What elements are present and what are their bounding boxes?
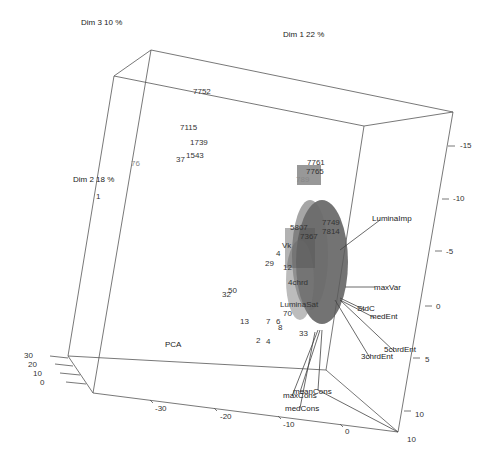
dim2-tick: 10: [415, 411, 424, 419]
cluster-label: 7367: [300, 233, 318, 241]
variable-label: medCons: [285, 405, 319, 413]
cluster-label: 4chrd: [288, 279, 308, 287]
dim3-axis-ticks: [50, 356, 86, 384]
cluster-label: 789: [296, 176, 309, 184]
cluster-label: Vk: [282, 242, 291, 250]
cluster-label: 33: [299, 330, 308, 338]
point-label: 76: [131, 160, 140, 168]
variable-label: LuminaImp: [372, 215, 412, 223]
dim3-tick: 0: [40, 379, 44, 387]
dim3-tick: 30: [24, 352, 33, 360]
point-label: 2: [256, 337, 260, 345]
dim3-axis-title: Dim 3 10 %: [81, 19, 122, 27]
cluster-label: 4: [276, 250, 280, 258]
point-label: 13: [240, 318, 249, 326]
point-label: 1543: [186, 152, 204, 160]
cluster-label: 70: [283, 310, 292, 318]
dim2-tick: -10: [453, 195, 465, 203]
pca-3d-plot: [0, 0, 493, 461]
dim2-tick: -15: [460, 142, 472, 150]
point-label: 8: [278, 324, 282, 332]
dim3-tick: 20: [28, 361, 37, 369]
dim2-tick: 5: [425, 356, 429, 364]
dim2-tick: 0: [436, 303, 440, 311]
variable-label: 3chrdEnt: [361, 353, 393, 361]
dim1-tick: 10: [407, 436, 416, 444]
variable-label: medEnt: [370, 313, 398, 321]
dim3-tick: 10: [33, 370, 42, 378]
point-label: 29: [265, 260, 274, 268]
cluster-label: 7749: [322, 219, 340, 227]
dim1-axis-title: Dim 1 22 %: [283, 31, 324, 39]
plot-title: PCA: [165, 341, 181, 349]
point-label: 7115: [180, 124, 197, 132]
bounding-box: [68, 50, 453, 432]
point-label: 37: [176, 156, 185, 164]
variable-label: maxCons: [283, 392, 317, 400]
variable-label: maxVar: [374, 284, 401, 292]
cluster-label: 5807: [290, 224, 308, 232]
cluster-label: 12: [283, 264, 292, 272]
cluster-label: 7761: [307, 159, 325, 167]
point-label: 4: [266, 338, 270, 346]
dim1-tick: -30: [155, 405, 167, 413]
point-label: 7752: [193, 88, 211, 96]
dim1-tick: 0: [345, 428, 349, 436]
dim1-tick: -20: [220, 413, 232, 421]
dim2-tick: -5: [446, 248, 453, 256]
point-label: 1: [96, 193, 100, 201]
dim2-axis-title: Dim 2 18 %: [73, 176, 114, 184]
cluster-label: 7814: [322, 228, 340, 236]
dim2-axis-ticks: [404, 146, 455, 411]
point-label: 1739: [190, 139, 208, 147]
cluster-label: LuminaSat: [280, 301, 318, 309]
point-label: 7: [266, 318, 270, 326]
dim1-tick: -10: [283, 421, 295, 429]
point-label: 32: [222, 291, 231, 299]
